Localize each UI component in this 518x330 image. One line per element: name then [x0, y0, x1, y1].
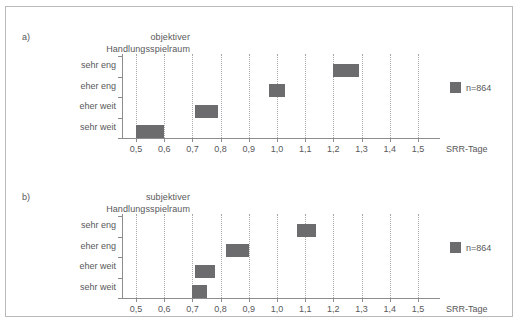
x-axis-tick: [221, 298, 222, 302]
x-axis-tick-label: 1,0: [262, 304, 292, 314]
gridline-vertical: [390, 214, 391, 298]
gridline-vertical: [221, 54, 222, 138]
panel-a-legend-label: n=864: [466, 83, 491, 93]
gridline-vertical: [305, 54, 306, 138]
interval-bar: [136, 125, 164, 138]
x-axis-line: [118, 138, 440, 139]
y-axis-tick: [118, 118, 123, 119]
x-axis-tick-label: 1,0: [262, 144, 292, 154]
gridline-vertical: [192, 54, 193, 138]
x-axis-tick: [362, 138, 363, 142]
panel-b-tag: b): [22, 192, 30, 202]
x-axis-tick-label: 1,5: [403, 144, 433, 154]
x-axis-tick-label: 0,6: [149, 304, 179, 314]
y-axis-category-label: sehr weit: [24, 282, 116, 292]
x-axis-tick-label: 0,8: [206, 304, 236, 314]
y-axis-category-label: eher weit: [24, 101, 116, 111]
x-axis-tick: [221, 138, 222, 142]
panel-b-title-line2: Handlungsspielraum: [36, 204, 190, 214]
panel-b-plot-area: 0,50,60,70,80,91,01,11,21,31,41,5SRR-Tag…: [122, 216, 432, 298]
gridline-vertical: [390, 54, 391, 138]
x-axis-tick: [164, 298, 165, 302]
y-axis-tick: [118, 97, 123, 98]
x-axis-tick-label: 0,8: [206, 144, 236, 154]
x-axis-tick-label: 1,2: [318, 144, 348, 154]
x-axis-tick: [333, 298, 334, 302]
x-axis-tick-label: 1,4: [375, 144, 405, 154]
x-axis-tick: [305, 138, 306, 142]
gridline-vertical: [136, 214, 137, 298]
panel-a-objektiver: a) objektiver Handlungsspielraum 0,50,60…: [0, 10, 518, 162]
interval-bar: [195, 105, 218, 118]
y-axis-category-label: sehr eng: [24, 60, 116, 70]
panel-a-tag: a): [22, 32, 30, 42]
gridline-vertical: [277, 214, 278, 298]
y-axis-category-label: eher eng: [24, 81, 116, 91]
interval-bar: [297, 224, 317, 237]
gridline-vertical: [221, 214, 222, 298]
x-axis-tick-label: 1,5: [403, 304, 433, 314]
x-axis-line: [118, 298, 440, 299]
y-axis-tick: [118, 138, 123, 139]
gridline-vertical: [362, 54, 363, 138]
y-axis-tick: [118, 257, 123, 258]
x-axis-tick-label: 1,1: [290, 144, 320, 154]
x-axis-tick: [192, 138, 193, 142]
panel-b-legend: n=864: [450, 242, 491, 253]
interval-bar: [226, 244, 249, 257]
y-axis-tick: [118, 278, 123, 279]
gridline-vertical: [418, 214, 419, 298]
x-axis-tick: [305, 298, 306, 302]
y-axis-line: [122, 214, 123, 298]
x-axis-title: SRR-Tage: [446, 304, 488, 314]
interval-bar: [269, 84, 286, 97]
y-axis-tick: [118, 216, 123, 217]
gridline-vertical: [362, 214, 363, 298]
panel-b-legend-label: n=864: [466, 243, 491, 253]
x-axis-tick: [164, 138, 165, 142]
y-axis-category-label: eher eng: [24, 241, 116, 251]
x-axis-tick: [362, 298, 363, 302]
gridline-vertical: [164, 214, 165, 298]
gridline-vertical: [333, 214, 334, 298]
x-axis-tick: [192, 298, 193, 302]
x-axis-tick: [277, 138, 278, 142]
panel-a-plot-area: 0,50,60,70,80,91,01,11,21,31,41,5SRR-Tag…: [122, 56, 432, 138]
panel-a-legend: n=864: [450, 82, 491, 93]
x-axis-tick-label: 0,9: [234, 304, 264, 314]
gridline-vertical: [249, 214, 250, 298]
x-axis-tick-label: 1,1: [290, 304, 320, 314]
legend-swatch-icon: [450, 242, 461, 253]
y-axis-tick: [118, 298, 123, 299]
legend-swatch-icon: [450, 82, 461, 93]
y-axis-tick: [118, 56, 123, 57]
x-axis-tick: [390, 298, 391, 302]
x-axis-tick-label: 1,4: [375, 304, 405, 314]
x-axis-tick: [136, 298, 137, 302]
gridline-vertical: [164, 54, 165, 138]
x-axis-tick: [277, 298, 278, 302]
interval-bar: [333, 64, 358, 77]
x-axis-tick: [390, 138, 391, 142]
x-axis-tick: [136, 138, 137, 142]
y-axis-tick: [118, 77, 123, 78]
panel-a-title-line1: objektiver: [72, 32, 190, 42]
x-axis-title: SRR-Tage: [446, 144, 488, 154]
x-axis-tick: [418, 138, 419, 142]
gridline-vertical: [418, 54, 419, 138]
panel-b-subjektiver: b) subjektiver Handlungsspielraum 0,50,6…: [0, 170, 518, 322]
x-axis-tick: [249, 138, 250, 142]
y-axis-category-label: sehr eng: [24, 220, 116, 230]
figure-root: a) objektiver Handlungsspielraum 0,50,60…: [0, 0, 518, 330]
x-axis-tick-label: 1,3: [347, 304, 377, 314]
y-axis-category-label: sehr weit: [24, 122, 116, 132]
x-axis-tick-label: 1,3: [347, 144, 377, 154]
x-axis-tick-label: 0,5: [121, 304, 151, 314]
y-axis-category-label: eher weit: [24, 261, 116, 271]
x-axis-tick: [418, 298, 419, 302]
interval-bar: [192, 285, 206, 298]
x-axis-tick: [249, 298, 250, 302]
x-axis-tick-label: 0,7: [177, 304, 207, 314]
gridline-vertical: [249, 54, 250, 138]
y-axis-line: [122, 54, 123, 138]
